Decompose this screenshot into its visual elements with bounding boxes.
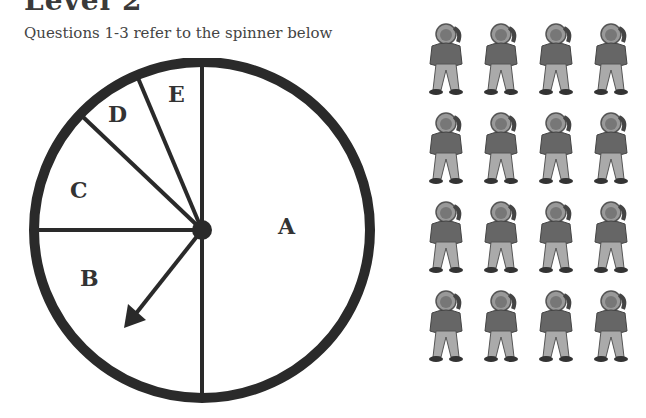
boy-on-phone-icon	[528, 198, 583, 287]
boy-on-phone-icon	[473, 198, 528, 287]
figures-grid	[418, 20, 640, 376]
spinner: A B C D E	[24, 58, 380, 418]
boy-on-phone-icon	[583, 198, 638, 287]
intro-text: Questions 1-3 refer to the spinner below	[24, 24, 332, 42]
section-e-label: E	[168, 81, 185, 107]
boy-on-phone-icon	[473, 287, 528, 376]
section-b-label: B	[80, 265, 99, 291]
boy-on-phone-icon	[418, 287, 473, 376]
boy-on-phone-icon	[583, 109, 638, 198]
boy-on-phone-icon	[583, 287, 638, 376]
boy-on-phone-icon	[528, 20, 583, 109]
section-d-label: D	[108, 101, 127, 127]
section-c-label: C	[70, 177, 88, 203]
boy-on-phone-icon	[473, 109, 528, 198]
boy-on-phone-icon	[528, 109, 583, 198]
boy-on-phone-icon	[418, 109, 473, 198]
level-heading: Level 2	[24, 0, 142, 17]
spinner-icon: A B C D E	[24, 58, 380, 414]
section-a-label: A	[277, 213, 296, 239]
boy-on-phone-icon	[418, 198, 473, 287]
boy-on-phone-icon	[528, 287, 583, 376]
boy-on-phone-icon	[583, 20, 638, 109]
boy-on-phone-icon	[473, 20, 528, 109]
boy-on-phone-icon	[418, 20, 473, 109]
